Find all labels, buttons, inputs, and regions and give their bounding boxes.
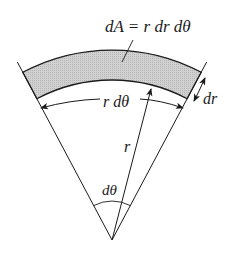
radius-arrow [112,89,151,240]
shaded-area-element [23,50,201,99]
dr-arrow-down [194,91,199,101]
left-radial-line [17,62,112,240]
area-formula-label: dA = r dr dθ [105,17,191,36]
diagram-svg: dA = r dr dθ r dθ dr r dθ [0,0,232,253]
arc-length-arrow [41,99,100,108]
angle-arc [94,201,131,206]
arc-length-label: r dθ [103,93,129,110]
radius-label: r [124,138,131,155]
angle-label: dθ [102,182,118,198]
dr-label: dr [203,90,218,107]
polar-area-element-diagram: dA = r dr dθ r dθ dr r dθ [0,0,232,253]
